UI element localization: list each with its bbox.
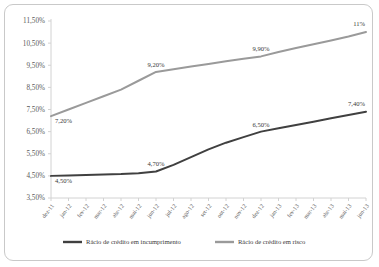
data-point-label: 6,50% (252, 121, 270, 128)
series-line-1 (51, 32, 366, 116)
y-axis-tick-label: 5,50% (26, 150, 45, 158)
x-axis-tick-label: abr-13 (321, 203, 335, 219)
x-axis-tick-label: jan-13 (268, 203, 283, 219)
y-axis-tick-label: 3,50% (26, 194, 45, 202)
x-axis-tick-label: dez-12 (250, 203, 265, 219)
x-axis-tick-label: out-12 (216, 203, 230, 219)
y-axis-tick-label: 4,50% (26, 172, 45, 180)
data-point-label: 4,50% (55, 177, 73, 184)
x-axis-tick-label: mar-13 (302, 203, 317, 220)
data-point-label: 9,90% (252, 45, 270, 52)
x-axis-tick-label: jun-12 (145, 203, 160, 220)
y-axis-tick-label: 8,50% (26, 84, 45, 92)
x-axis-tick-label: fev-12 (76, 203, 90, 219)
x-axis-tick-label: abr-12 (111, 203, 125, 219)
data-point-label: 9,20% (147, 61, 165, 68)
y-axis-tick-label: 11,50% (23, 17, 45, 25)
chart-plot-area: 3,50%4,50%5,50%6,50%7,50%8,50%9,50%10,50… (5, 5, 374, 262)
legend-label-0[interactable]: Rácio de crédito em incumprimento (86, 238, 182, 245)
y-axis-tick-label: 10,50% (23, 40, 45, 48)
legend-label-1[interactable]: Rácio de crédito em risco (238, 238, 306, 245)
x-axis-tick-label: jun-13 (355, 203, 370, 220)
data-point-label: 7,20% (55, 117, 73, 124)
y-axis-tick-label: 7,50% (26, 106, 45, 114)
x-axis-tick-label: nov-12 (232, 203, 247, 220)
data-point-label: 4,70% (147, 160, 165, 167)
x-axis-tick-label: mai-12 (127, 203, 142, 220)
data-point-label: 11% (353, 20, 365, 27)
chart-frame: 3,50%4,50%5,50%6,50%7,50%8,50%9,50%10,50… (4, 4, 373, 261)
x-axis-tick-label: jan-12 (58, 203, 73, 219)
x-axis-tick-label: mai-13 (337, 203, 352, 220)
y-axis-tick-label: 6,50% (26, 128, 45, 136)
line-chart: 3,50%4,50%5,50%6,50%7,50%8,50%9,50%10,50… (5, 5, 374, 262)
x-axis-tick-label: jul-12 (163, 203, 177, 219)
data-point-label: 7,40% (348, 100, 366, 107)
series-line-0 (51, 112, 366, 176)
x-axis-tick-label: set-12 (199, 203, 213, 218)
y-axis-tick-label: 9,50% (26, 62, 45, 70)
x-axis-tick-label: fev-13 (286, 203, 300, 219)
x-axis-tick-label: mar-12 (92, 203, 107, 220)
x-axis-tick-label: dez-11 (41, 203, 55, 219)
x-axis-tick-label: ago-12 (180, 203, 195, 220)
